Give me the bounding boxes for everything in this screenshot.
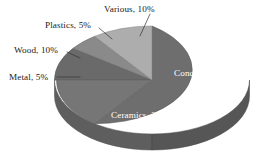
slice-label-concrete: Concrete, 40%: [174, 68, 230, 78]
slice-label-wood: Wood, 10%: [14, 45, 58, 55]
slice-label-various: Various, 10%: [104, 4, 155, 14]
slice-label-plastics: Plastics, 5%: [45, 20, 91, 30]
slice-label-ceramics: Ceramics, 30%: [111, 110, 168, 120]
pie-chart-canvas: [0, 0, 265, 168]
slice-label-metal: Metal, 5%: [9, 72, 48, 82]
pie-chart-figure: Various, 10% Plastics, 5% Wood, 10% Meta…: [0, 0, 265, 168]
